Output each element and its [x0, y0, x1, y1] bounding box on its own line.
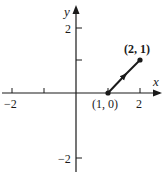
vector-start-point [105, 90, 110, 95]
x-axis-arrow-icon [153, 90, 162, 97]
coordinate-plane: y x −2 2 2 −2 (2, 1) (1, 0) [0, 0, 163, 173]
vector-segment-b [124, 60, 140, 76]
vector-end-label: (2, 1) [124, 42, 150, 56]
x-tick-label-neg2: −2 [4, 97, 17, 111]
y-tick-label-2: 2 [65, 22, 71, 36]
y-axis-arrow-icon [73, 5, 80, 14]
vector-segment-a [108, 74, 126, 93]
vector-start-label: (1, 0) [92, 97, 118, 111]
x-tick-label-2: 2 [136, 97, 142, 111]
vector-end-point [137, 57, 142, 62]
y-axis-label: y [62, 4, 70, 19]
x-axis-label: x [152, 74, 159, 89]
y-tick-label-neg2: −2 [58, 152, 71, 166]
